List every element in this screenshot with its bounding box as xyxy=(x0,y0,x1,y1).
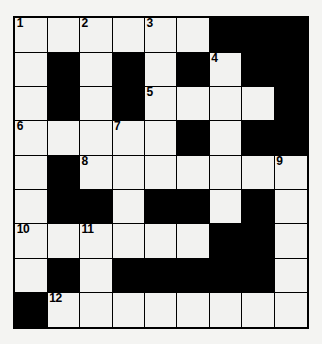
white-cell[interactable] xyxy=(241,86,275,122)
clue-number: 12 xyxy=(49,292,62,305)
white-cell[interactable] xyxy=(209,155,243,191)
white-cell[interactable] xyxy=(274,189,308,225)
white-cell[interactable]: 12 xyxy=(47,292,81,328)
clue-number: 3 xyxy=(146,17,152,30)
white-cell[interactable] xyxy=(14,258,48,294)
white-cell[interactable]: 1 xyxy=(14,17,48,53)
white-cell[interactable] xyxy=(176,17,210,53)
white-cell[interactable] xyxy=(79,120,113,156)
white-cell[interactable] xyxy=(209,120,243,156)
white-cell[interactable] xyxy=(79,52,113,88)
white-cell[interactable] xyxy=(176,155,210,191)
white-cell[interactable] xyxy=(112,155,146,191)
black-cell xyxy=(47,86,81,122)
clue-number: 1 xyxy=(17,17,23,30)
white-cell[interactable] xyxy=(176,223,210,259)
white-cell[interactable] xyxy=(112,292,146,328)
white-cell[interactable] xyxy=(176,292,210,328)
clue-number: 7 xyxy=(114,120,120,133)
black-cell xyxy=(241,223,275,259)
white-cell[interactable] xyxy=(79,258,113,294)
black-cell xyxy=(274,52,308,88)
clue-number: 8 xyxy=(82,155,88,168)
black-cell xyxy=(274,17,308,53)
clue-number: 11 xyxy=(82,223,94,236)
white-cell[interactable]: 3 xyxy=(144,17,178,53)
white-cell[interactable] xyxy=(14,189,48,225)
clue-number: 10 xyxy=(17,223,30,236)
black-cell xyxy=(47,189,81,225)
black-cell xyxy=(79,189,113,225)
black-cell xyxy=(112,52,146,88)
white-cell[interactable]: 2 xyxy=(79,17,113,53)
black-cell xyxy=(274,120,308,156)
white-cell[interactable] xyxy=(241,292,275,328)
white-cell[interactable] xyxy=(144,52,178,88)
crossword-puzzle: 123456789101112 xyxy=(13,16,309,329)
white-cell[interactable]: 10 xyxy=(14,223,48,259)
black-cell xyxy=(241,189,275,225)
white-cell[interactable] xyxy=(209,86,243,122)
black-cell xyxy=(144,189,178,225)
black-cell xyxy=(14,292,48,328)
black-cell xyxy=(274,86,308,122)
white-cell[interactable] xyxy=(209,189,243,225)
white-cell[interactable] xyxy=(14,86,48,122)
black-cell xyxy=(209,17,243,53)
white-cell[interactable] xyxy=(47,120,81,156)
white-cell[interactable] xyxy=(14,155,48,191)
white-cell[interactable] xyxy=(79,292,113,328)
white-cell[interactable]: 11 xyxy=(79,223,113,259)
white-cell[interactable]: 8 xyxy=(79,155,113,191)
black-cell xyxy=(176,189,210,225)
white-cell[interactable] xyxy=(112,17,146,53)
white-cell[interactable]: 5 xyxy=(144,86,178,122)
clue-number: 6 xyxy=(17,120,23,133)
white-cell[interactable]: 4 xyxy=(209,52,243,88)
white-cell[interactable] xyxy=(47,17,81,53)
black-cell xyxy=(176,120,210,156)
black-cell xyxy=(209,258,243,294)
white-cell[interactable] xyxy=(47,223,81,259)
black-cell xyxy=(47,155,81,191)
black-cell xyxy=(209,223,243,259)
black-cell xyxy=(241,258,275,294)
white-cell[interactable]: 6 xyxy=(14,120,48,156)
white-cell[interactable] xyxy=(274,292,308,328)
black-cell xyxy=(241,120,275,156)
white-cell[interactable]: 7 xyxy=(112,120,146,156)
clue-number: 9 xyxy=(276,155,282,168)
white-cell[interactable] xyxy=(176,86,210,122)
clue-number: 5 xyxy=(146,86,152,99)
black-cell xyxy=(176,52,210,88)
white-cell[interactable] xyxy=(274,258,308,294)
clue-number: 4 xyxy=(211,52,217,65)
black-cell xyxy=(176,258,210,294)
black-cell xyxy=(47,258,81,294)
white-cell[interactable] xyxy=(14,52,48,88)
white-cell[interactable] xyxy=(112,223,146,259)
white-cell[interactable] xyxy=(241,155,275,191)
clue-number: 2 xyxy=(82,17,88,30)
black-cell xyxy=(112,258,146,294)
white-cell[interactable] xyxy=(112,189,146,225)
white-cell[interactable] xyxy=(79,86,113,122)
white-cell[interactable] xyxy=(144,223,178,259)
crossword-grid[interactable]: 123456789101112 xyxy=(13,16,309,329)
white-cell[interactable]: 9 xyxy=(274,155,308,191)
white-cell[interactable] xyxy=(144,292,178,328)
black-cell xyxy=(241,52,275,88)
white-cell[interactable] xyxy=(274,223,308,259)
white-cell[interactable] xyxy=(144,155,178,191)
black-cell xyxy=(241,17,275,53)
white-cell[interactable] xyxy=(209,292,243,328)
black-cell xyxy=(112,86,146,122)
black-cell xyxy=(144,258,178,294)
white-cell[interactable] xyxy=(144,120,178,156)
black-cell xyxy=(47,52,81,88)
